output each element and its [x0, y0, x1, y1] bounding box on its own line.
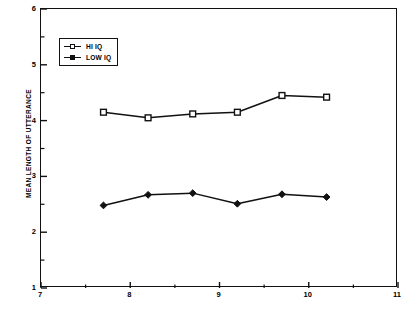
y-tick-label: 6	[10, 4, 36, 13]
data-point	[145, 115, 151, 121]
open-square-marker-icon	[64, 42, 81, 51]
data-point	[324, 94, 330, 100]
x-tick-label: 10	[295, 290, 321, 299]
x-tick-label: 9	[206, 290, 232, 299]
data-point	[323, 194, 330, 201]
data-point	[234, 109, 240, 115]
filled-diamond-marker-icon	[64, 53, 81, 62]
chart-figure: MEAN LENGTH OF UTTERANCE 123456 7891011 …	[0, 0, 407, 330]
y-tick-label: 2	[10, 227, 36, 236]
legend-label-low-iq: LOW IQ	[86, 53, 111, 62]
x-tick-label: 11	[384, 290, 407, 299]
legend-label-hi-iq: HI IQ	[86, 42, 102, 51]
series-hi-iq	[101, 93, 330, 121]
y-tick-label: 5	[10, 60, 36, 69]
data-point	[234, 200, 241, 207]
legend-item-low-iq: LOW IQ	[64, 53, 111, 62]
legend-item-hi-iq: HI IQ	[64, 42, 111, 51]
data-point	[279, 191, 286, 198]
data-point	[101, 109, 107, 115]
data-point	[190, 111, 196, 117]
y-axis-title: MEAN LENGTH OF UTTERANCE	[25, 59, 32, 229]
y-tick-label: 3	[10, 171, 36, 180]
x-tick-label: 8	[116, 290, 142, 299]
series-low-iq	[100, 190, 330, 209]
y-tick-label: 4	[10, 116, 36, 125]
data-point	[189, 190, 196, 197]
series-line	[103, 193, 326, 205]
data-point	[100, 202, 107, 209]
data-point	[279, 93, 285, 99]
chart-legend: HI IQ LOW IQ	[59, 38, 118, 66]
series-line	[103, 95, 326, 117]
data-point	[145, 191, 152, 198]
x-tick-label: 7	[27, 290, 53, 299]
